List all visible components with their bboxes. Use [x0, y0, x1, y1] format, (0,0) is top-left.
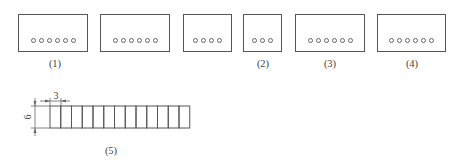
strip-diagram: 3 6: [0, 0, 461, 160]
strip-cell: [125, 106, 136, 128]
strip-cell: [61, 106, 72, 128]
strip-cell: [82, 106, 93, 128]
strip-cell: [147, 106, 158, 128]
strip-cell: [72, 106, 83, 128]
strip-cells: [50, 106, 190, 128]
strip-cell: [93, 106, 104, 128]
strip-cell: [168, 106, 179, 128]
strip-cell: [115, 106, 126, 128]
strip-cell: [104, 106, 115, 128]
strip-cell: [158, 106, 169, 128]
strip-cell: [179, 106, 190, 128]
strip-cell: [50, 106, 61, 128]
strip-cell: [136, 106, 147, 128]
dimension-width-text: 3: [54, 90, 59, 101]
dimension-height: [31, 98, 50, 136]
dimension-height-text: 6: [22, 115, 33, 120]
